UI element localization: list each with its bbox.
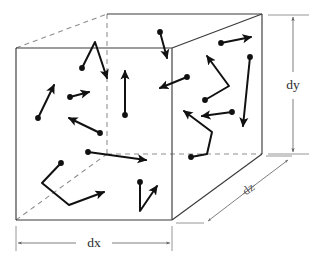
figure-canvas: dx dy dz: [0, 0, 319, 263]
velocity-vector: [88, 152, 146, 160]
molecule-dot: [229, 109, 235, 115]
dy-label: dy: [286, 77, 300, 92]
molecule-dot: [218, 40, 224, 46]
molecule-dot: [247, 54, 253, 60]
molecule-m13: [85, 149, 146, 160]
dx-label: dx: [87, 235, 101, 250]
dimension-dy: dy: [268, 15, 309, 154]
velocity-vector: [140, 182, 157, 211]
molecule-dot: [97, 130, 103, 136]
molecule-dot: [122, 112, 128, 118]
molecule-m9: [202, 56, 229, 103]
molecule-m6: [157, 29, 167, 58]
dimension-dx: dx: [16, 226, 172, 251]
kinetic-theory-figure: dx dy dz: [0, 0, 319, 263]
molecule-m5: [122, 71, 128, 118]
velocity-vector: [38, 85, 54, 118]
molecule-dot: [35, 115, 41, 121]
molecule-m1: [79, 42, 107, 78]
molecule-m3: [67, 92, 89, 100]
dimension-dz: dz: [176, 156, 292, 223]
edge-top-right-diagonal: [172, 14, 262, 48]
molecule-dot: [85, 149, 91, 155]
velocity-vector: [221, 37, 251, 43]
molecule-dot: [202, 97, 208, 103]
hidden-edge-back-top-left-join: [16, 14, 107, 48]
molecule-m2: [35, 85, 54, 121]
molecule-dot: [67, 94, 73, 100]
molecule-dot: [137, 179, 143, 185]
velocity-vector: [42, 163, 104, 205]
velocity-vector: [205, 56, 229, 100]
molecule-dot: [184, 74, 190, 80]
molecule-dot: [79, 65, 85, 71]
molecule-group: [35, 29, 253, 211]
velocity-vector: [184, 111, 212, 157]
velocity-vector: [82, 42, 107, 78]
molecule-m11: [243, 54, 253, 126]
molecule-m12: [184, 111, 212, 160]
molecule-dot: [157, 29, 163, 35]
velocity-vector: [69, 118, 100, 133]
molecule-dot: [188, 154, 194, 160]
velocity-vector: [160, 32, 167, 58]
velocity-vector: [243, 57, 250, 126]
velocity-vector: [202, 112, 232, 116]
molecule-m4: [69, 118, 103, 136]
molecule-m7: [218, 37, 251, 46]
molecule-dot: [58, 160, 64, 166]
velocity-vector: [70, 92, 89, 97]
velocity-vector: [160, 77, 187, 88]
molecule-m10: [202, 109, 235, 116]
molecule-m15: [137, 179, 157, 211]
molecule-m8: [160, 74, 190, 88]
molecule-m14: [42, 160, 104, 205]
